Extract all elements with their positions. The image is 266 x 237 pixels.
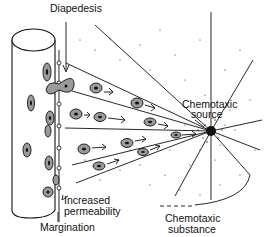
chemotaxic-substance-stipple	[79, 29, 255, 195]
chemotaxic-source-dot	[206, 126, 216, 136]
diapedesis-pointer	[63, 22, 69, 72]
label-chemotaxic-substance-2: substance	[168, 224, 216, 235]
label-margination: Margination	[40, 222, 95, 233]
label-diapedesis: Diapedesis	[50, 3, 102, 14]
migrating-leukocytes	[70, 83, 181, 170]
leukocyte-chemotaxis-diagram	[0, 0, 266, 237]
chemotaxic-substance-bracket	[195, 175, 250, 205]
label-increased-permeability-2: permeability	[64, 206, 121, 217]
label-chemotaxic-source-2: source	[191, 109, 223, 120]
